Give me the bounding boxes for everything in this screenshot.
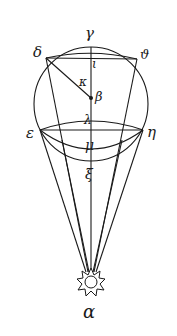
label-xi: ξ: [85, 166, 94, 182]
label-beta: β: [94, 89, 103, 104]
label-epsilon: ε: [26, 124, 34, 142]
sun-icon: [77, 268, 105, 296]
label-eta: η: [147, 123, 156, 141]
label-delta: δ: [33, 43, 42, 61]
label-mu: μ: [85, 137, 94, 153]
ray-epsilon: [40, 130, 86, 272]
label-kappa: κ: [78, 75, 87, 89]
ray-inner-left: [62, 140, 89, 272]
label-alpha: α: [83, 301, 95, 322]
label-gamma: γ: [85, 24, 94, 42]
label-lambda: λ: [83, 113, 92, 127]
diagram: γ δ ϑ ι κ β λ ε η μ ξ α: [0, 0, 177, 336]
label-iota: ι: [92, 57, 97, 71]
label-theta: ϑ: [140, 47, 149, 62]
point-beta: [89, 96, 93, 100]
